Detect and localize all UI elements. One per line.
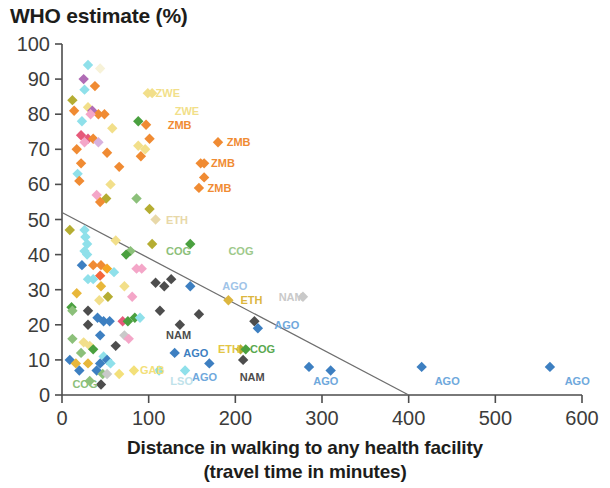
data-point — [102, 148, 112, 158]
point-label: GAB — [140, 364, 165, 376]
y-axis-tick-label: 80 — [28, 103, 50, 125]
point-label: ETH — [241, 294, 263, 306]
data-point — [105, 179, 115, 189]
point-label: COG — [166, 245, 191, 257]
data-point — [76, 348, 86, 358]
y-axis-tick-label: 90 — [28, 68, 50, 90]
data-point — [127, 292, 137, 302]
data-point — [77, 260, 87, 270]
x-axis-tick-label: 300 — [305, 407, 338, 429]
y-axis-tick-label: 20 — [28, 314, 50, 336]
data-point — [77, 116, 87, 126]
data-point — [194, 309, 204, 319]
point-label: NAM — [279, 291, 304, 303]
data-point — [104, 316, 114, 326]
y-axis-tick-label: 0 — [39, 384, 50, 406]
data-point — [78, 74, 88, 84]
data-point — [304, 362, 314, 372]
point-label: NAM — [240, 371, 265, 383]
x-axis-tick-label: 200 — [219, 407, 252, 429]
point-label: AGO — [565, 375, 591, 387]
point-label: AGO — [192, 371, 218, 383]
y-axis-tick-label: 100 — [17, 33, 50, 55]
data-point — [95, 63, 105, 73]
data-point — [95, 330, 105, 340]
x-axis-label-line2: (travel time in minutes) — [0, 460, 610, 484]
point-label: COG — [250, 343, 275, 355]
point-label: LSO — [170, 375, 193, 387]
data-point — [416, 362, 426, 372]
x-axis-tick-label: 400 — [392, 407, 425, 429]
data-point — [194, 183, 204, 193]
point-label: AGO — [222, 280, 248, 292]
data-point — [155, 306, 165, 316]
y-axis-tick-label: 60 — [28, 173, 50, 195]
data-point — [111, 341, 121, 351]
data-point — [76, 158, 86, 168]
point-label: ZWE — [156, 87, 180, 99]
data-point — [131, 193, 141, 203]
data-point — [69, 105, 79, 115]
point-label: ZWE — [175, 105, 199, 117]
point-label: ZMB — [227, 136, 251, 148]
data-point — [67, 95, 77, 105]
data-point — [99, 109, 109, 119]
point-label: ETH — [166, 214, 188, 226]
point-label: AGO — [274, 319, 300, 331]
data-point — [119, 281, 129, 291]
point-label: AGO — [183, 347, 209, 359]
x-axis-label: Distance in walking to any health facili… — [0, 436, 610, 484]
point-label: NAM — [166, 329, 191, 341]
data-point — [107, 123, 117, 133]
data-point — [74, 176, 84, 186]
y-axis-tick-label: 50 — [28, 209, 50, 231]
y-axis-tick-label: 30 — [28, 279, 50, 301]
point-label: ZMB — [211, 157, 235, 169]
data-point — [204, 358, 214, 368]
x-axis-tick-label: 100 — [132, 407, 165, 429]
data-point — [223, 295, 233, 305]
x-axis-tick-label: 600 — [565, 407, 598, 429]
data-point — [545, 362, 555, 372]
y-axis-tick-label: 10 — [28, 349, 50, 371]
point-label: ETH — [218, 343, 240, 355]
data-point — [114, 162, 124, 172]
data-points-group — [65, 60, 556, 390]
data-point — [147, 239, 157, 249]
data-point — [83, 306, 93, 316]
data-point — [169, 348, 179, 358]
data-point — [83, 60, 93, 70]
data-point — [166, 274, 176, 284]
point-label: AGO — [313, 375, 339, 387]
data-point — [144, 204, 154, 214]
point-label: ZMB — [208, 182, 232, 194]
point-label: COG — [228, 245, 253, 257]
data-point — [150, 214, 160, 224]
x-axis-label-line1: Distance in walking to any health facili… — [0, 436, 610, 460]
chart-page: WHO estimate (%) 01020304050607080901000… — [0, 0, 610, 488]
x-axis-tick-label: 0 — [56, 407, 67, 429]
y-axis-tick-label: 70 — [28, 138, 50, 160]
data-point — [67, 334, 77, 344]
scatter-plot: 0102030405060708090100010020030040050060… — [0, 0, 610, 430]
data-point — [135, 313, 145, 323]
data-point — [111, 235, 121, 245]
x-axis-tick-label: 500 — [479, 407, 512, 429]
point-label: AGO — [435, 375, 461, 387]
data-point — [144, 134, 154, 144]
point-label: COG — [72, 378, 97, 390]
data-point — [96, 281, 106, 291]
point-label: ZMB — [168, 119, 192, 131]
annotations-group: ZWEZWEZMBZMBZMBZMBETHCOGCOGAGOETHNAMAGON… — [72, 87, 590, 390]
y-axis-tick-label: 40 — [28, 244, 50, 266]
data-point — [114, 369, 124, 379]
data-point — [129, 365, 139, 375]
data-point — [79, 84, 89, 94]
data-point — [72, 288, 82, 298]
data-point — [238, 355, 248, 365]
data-point — [72, 144, 82, 154]
data-point — [90, 81, 100, 91]
data-point — [83, 320, 93, 330]
data-point — [213, 137, 223, 147]
data-point — [65, 225, 75, 235]
